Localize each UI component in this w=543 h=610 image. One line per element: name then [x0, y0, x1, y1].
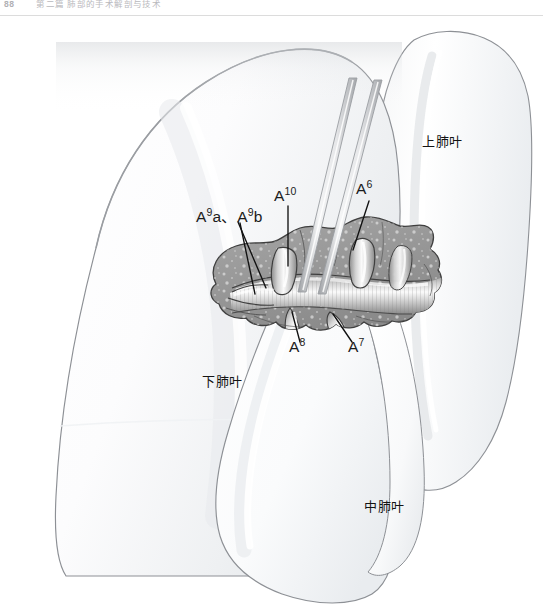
label-a8: A8: [289, 339, 305, 355]
label-lower-lobe: 下肺叶: [202, 374, 243, 389]
page-running-header: 88 第二篇 肺部的手术解剖与技术: [0, 0, 543, 15]
label-middle-lobe: 中肺叶: [364, 499, 405, 514]
label-a6: A6: [356, 181, 372, 197]
running-head-text: 第二篇 肺部的手术解剖与技术: [36, 0, 161, 9]
figure-page: 88 第二篇 肺部的手术解剖与技术: [0, 0, 543, 610]
label-a9a-a9b: A9a、A9b: [196, 209, 262, 225]
label-a10: A10: [274, 188, 296, 204]
label-a7: A7: [348, 339, 364, 355]
label-upper-lobe: 上肺叶: [422, 134, 463, 149]
anatomical-illustration: A9a、A9b A10 A6 A8 A7 上肺叶 下肺叶 中肺叶: [0, 16, 543, 610]
page-folio: 88: [4, 0, 14, 9]
